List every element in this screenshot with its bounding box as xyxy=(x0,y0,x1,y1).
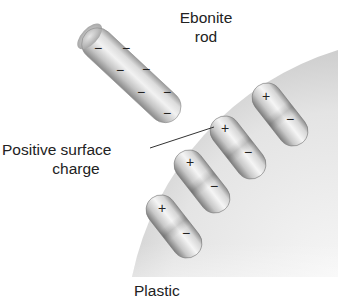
minus-charge-icon: − xyxy=(163,84,171,100)
minus-charge-icon: − xyxy=(122,40,130,56)
ebonite-rod-label-line2: rod xyxy=(176,27,236,46)
diagram-canvas: − − − − − − − xyxy=(0,0,348,308)
minus-charge-icon: − xyxy=(142,61,150,77)
plus-charge-icon: + xyxy=(262,88,270,104)
minus-charge-icon: − xyxy=(163,105,171,121)
minus-charge-icon: − xyxy=(182,225,190,241)
plus-charge-icon: + xyxy=(186,154,194,170)
minus-charge-icon: − xyxy=(286,111,294,127)
positive-surface-charge-label: Positive surface charge xyxy=(2,140,182,178)
minus-charge-icon: − xyxy=(137,84,145,100)
minus-charge-icon: − xyxy=(210,178,218,194)
minus-charge-icon: − xyxy=(244,144,252,160)
minus-charge-icon: − xyxy=(116,62,124,78)
positive-surface-charge-label-line2: charge xyxy=(2,159,148,178)
ebonite-rod-label-line1: Ebonite xyxy=(176,8,236,27)
ebonite-rod-label: Ebonite rod xyxy=(176,8,236,46)
plastic-label: Plastic xyxy=(134,281,180,300)
plus-charge-icon: + xyxy=(221,120,229,136)
positive-surface-charge-label-line1: Positive surface xyxy=(2,140,182,159)
plus-charge-icon: + xyxy=(158,200,166,216)
minus-charge-icon: − xyxy=(94,40,102,56)
